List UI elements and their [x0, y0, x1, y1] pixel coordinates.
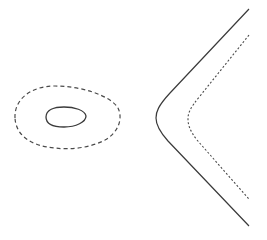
inner-solid-loop: [46, 107, 86, 127]
diagram-canvas: [0, 0, 267, 240]
dotted-branch-curve: [188, 35, 249, 199]
level-curves-diagram: [0, 0, 267, 240]
outer-dashed-loop: [15, 86, 120, 149]
solid-branch-curve: [156, 9, 249, 226]
